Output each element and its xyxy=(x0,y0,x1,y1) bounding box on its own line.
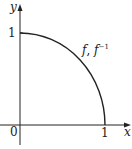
y-axis-arrow-icon xyxy=(18,4,23,11)
curve-label-sep: , xyxy=(86,43,94,57)
plot-area xyxy=(0,0,132,149)
x-tick-label-1: 1 xyxy=(101,127,109,139)
chart: y 1 0 1 x f, f−1 xyxy=(0,0,132,149)
curve-annotation: f, f−1 xyxy=(82,44,109,56)
y-tick-label-1: 1 xyxy=(8,27,16,39)
curve-label-finv-sup: −1 xyxy=(99,43,109,51)
x-axis-label: x xyxy=(124,126,131,138)
origin-label: 0 xyxy=(10,126,18,138)
y-axis-label: y xyxy=(10,1,17,13)
